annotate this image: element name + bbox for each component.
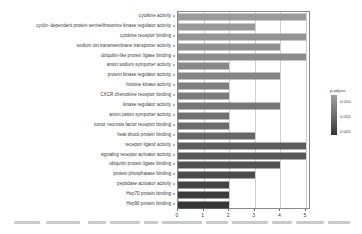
bar bbox=[178, 142, 306, 149]
bar-row bbox=[178, 91, 309, 101]
caption-text-segment bbox=[110, 221, 140, 224]
bar-row bbox=[178, 170, 309, 180]
y-axis-tick bbox=[173, 174, 175, 175]
bar-row bbox=[178, 62, 309, 72]
x-axis-tick-label: 2 bbox=[227, 212, 230, 218]
y-axis-tick-label: Hsp70 protein binding bbox=[126, 192, 171, 197]
plot-panel bbox=[177, 11, 310, 209]
bar bbox=[178, 33, 306, 40]
bar-row bbox=[178, 151, 309, 161]
legend-tick-label: 0.020 bbox=[340, 128, 350, 133]
bar bbox=[178, 53, 306, 60]
y-axis-tick bbox=[173, 35, 175, 36]
x-axis-tick-label: 1 bbox=[201, 212, 204, 218]
caption-text-segment bbox=[46, 221, 80, 224]
x-axis-tick-label: 3 bbox=[252, 212, 255, 218]
caption-text-segment bbox=[88, 221, 106, 224]
bar-row bbox=[178, 131, 309, 141]
y-axis-tick bbox=[173, 25, 175, 26]
y-axis-tick-label: protein kinase regulator activity bbox=[108, 73, 171, 78]
bar bbox=[178, 152, 306, 159]
caption-text-segment bbox=[296, 221, 324, 224]
bar-series bbox=[178, 12, 309, 208]
bar bbox=[178, 83, 229, 90]
y-axis-tick bbox=[173, 194, 175, 195]
y-axis-tick-label: receptor ligand activity bbox=[125, 142, 171, 147]
y-axis-tick bbox=[173, 134, 175, 135]
bar-row bbox=[178, 111, 309, 121]
y-axis-tick-label: CXCR chemokine receptor binding bbox=[100, 93, 171, 98]
y-axis-tick bbox=[173, 45, 175, 46]
y-axis-tick-label: ubiquitin protein ligase binding bbox=[109, 162, 171, 167]
bar bbox=[178, 162, 280, 169]
y-axis-tick bbox=[173, 114, 175, 115]
bar bbox=[178, 172, 255, 179]
bar-row bbox=[178, 81, 309, 91]
caption-text-segment bbox=[162, 221, 202, 224]
bar bbox=[178, 202, 229, 209]
y-axis-tick bbox=[173, 154, 175, 155]
y-axis-tick bbox=[173, 105, 175, 106]
x-axis-tick bbox=[203, 209, 204, 211]
x-axis-tick bbox=[305, 209, 306, 211]
bar-row bbox=[178, 71, 309, 81]
go-enrichment-bar-chart: cytokine activitycyclin−dependent protei… bbox=[0, 0, 362, 234]
caption-text-segment bbox=[144, 221, 158, 224]
bar bbox=[178, 132, 255, 139]
y-axis-tick-label: ubiquitin-like protein ligase binding bbox=[101, 53, 171, 58]
legend-tick bbox=[337, 101, 339, 102]
bar bbox=[178, 103, 280, 110]
bar-row bbox=[178, 101, 309, 111]
y-axis-tick-label: histone kinase activity bbox=[126, 83, 171, 88]
legend-tick bbox=[337, 131, 339, 132]
x-axis-tick-label: 5 bbox=[303, 212, 306, 218]
bar bbox=[178, 182, 229, 189]
caption-text-segment bbox=[232, 221, 268, 224]
y-axis-tick bbox=[173, 75, 175, 76]
caption-text-segment bbox=[272, 221, 292, 224]
legend-tick-label: 0.015 bbox=[340, 113, 350, 118]
legend: p.adjust 0.0100.0150.020 bbox=[330, 88, 362, 144]
bar-row bbox=[178, 22, 309, 32]
y-axis-tick bbox=[173, 55, 175, 56]
legend-title: p.adjust bbox=[330, 88, 345, 93]
x-axis-tick bbox=[254, 209, 255, 211]
caption-text-segment bbox=[328, 221, 350, 224]
y-axis-tick bbox=[173, 15, 175, 16]
legend-tick bbox=[337, 116, 339, 117]
bar-row bbox=[178, 141, 309, 151]
y-axis-tick bbox=[173, 164, 175, 165]
x-axis-tick bbox=[279, 209, 280, 211]
y-axis-tick bbox=[173, 184, 175, 185]
y-axis-tick bbox=[173, 95, 175, 96]
x-axis-tick-label: 4 bbox=[278, 212, 281, 218]
bar bbox=[178, 122, 229, 129]
bar bbox=[178, 93, 229, 100]
y-axis-labels: cytokine activitycyclin−dependent protei… bbox=[0, 11, 175, 209]
y-axis-tick-label: cytokine receptor binding bbox=[120, 33, 171, 38]
x-axis-tick bbox=[177, 209, 178, 211]
bar bbox=[178, 63, 229, 70]
bar-row bbox=[178, 32, 309, 42]
x-axis-tick bbox=[228, 209, 229, 211]
caption-text-segment bbox=[14, 221, 40, 224]
bar bbox=[178, 23, 255, 30]
bar-row bbox=[178, 52, 309, 62]
bar-row bbox=[178, 12, 309, 22]
legend-tick-label: 0.010 bbox=[340, 98, 350, 103]
caption-text-segment bbox=[206, 221, 228, 224]
bar-row bbox=[178, 161, 309, 171]
y-axis-tick-label: Hsp90 protein binding bbox=[126, 202, 171, 207]
bar-row bbox=[178, 190, 309, 200]
y-axis-tick-label: cytokine activity bbox=[139, 14, 171, 19]
y-axis-tick bbox=[173, 204, 175, 205]
y-axis-tick-label: sodium ion transmembrane transporter act… bbox=[77, 43, 171, 48]
y-axis-tick-label: kinase regulator activity bbox=[123, 103, 171, 108]
y-axis-tick-label: peptidase activator activity bbox=[117, 182, 171, 187]
y-axis-tick bbox=[173, 144, 175, 145]
bar bbox=[178, 43, 280, 50]
bar bbox=[178, 13, 306, 20]
y-axis-tick-label: anion:cation symporter activity bbox=[109, 113, 171, 118]
bar bbox=[178, 112, 229, 119]
figure-caption bbox=[14, 219, 350, 231]
